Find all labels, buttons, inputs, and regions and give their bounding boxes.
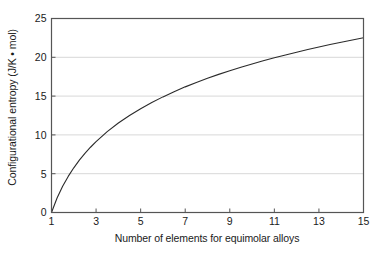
x-tick-label-5: 5 xyxy=(138,215,144,227)
x-tick-label-15: 15 xyxy=(358,215,370,227)
plot-area: 13579111315 0510152025 xyxy=(0,0,385,257)
y-tick-label-25: 25 xyxy=(35,12,47,24)
x-tick-label-11: 11 xyxy=(269,215,280,227)
y-axis-tick-labels: 0510152025 xyxy=(35,12,47,218)
y-tick-label-20: 20 xyxy=(35,51,47,63)
y-tick-label-0: 0 xyxy=(41,206,47,218)
x-tick-label-3: 3 xyxy=(93,215,99,227)
y-tick-label-15: 15 xyxy=(35,90,47,102)
series-line xyxy=(52,38,364,213)
x-tick-label-1: 1 xyxy=(49,215,55,227)
data-series-curve xyxy=(52,38,364,213)
chart-figure: Configurational entropy (J/K • mol) Numb… xyxy=(0,0,385,257)
x-tick-label-13: 13 xyxy=(313,215,325,227)
x-tick-label-9: 9 xyxy=(227,215,233,227)
x-tick-label-7: 7 xyxy=(182,215,188,227)
x-axis-tick-labels: 13579111315 xyxy=(49,215,370,227)
y-tick-label-5: 5 xyxy=(41,168,47,180)
x-axis-ticks xyxy=(52,209,364,213)
y-tick-label-10: 10 xyxy=(35,129,47,141)
gridlines xyxy=(52,57,364,173)
